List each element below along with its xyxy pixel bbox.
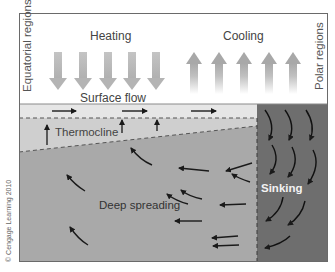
heating-label: Heating — [90, 29, 131, 43]
arrow-left-icon — [213, 245, 239, 246]
heating-arrow-icon — [74, 52, 92, 90]
heating-arrows — [49, 52, 165, 90]
cooling-arrow-icon — [186, 52, 202, 94]
cooling-arrow-icon — [236, 52, 252, 94]
arrow-left-icon — [220, 204, 246, 205]
equatorial-regions-label: Equatorial regions — [21, 0, 33, 92]
heating-arrow-icon — [49, 52, 67, 90]
cooling-label: Cooling — [223, 29, 264, 43]
cooling-arrow-icon — [285, 52, 301, 94]
surface-flow-label: Surface flow — [80, 91, 146, 105]
thermocline-label: Thermocline — [55, 126, 118, 138]
ocean-circulation-diagram — [0, 0, 335, 272]
sinking-label: Sinking — [261, 182, 303, 194]
copyright-notice: © Cengage Learning 2010 — [5, 180, 12, 262]
cooling-arrow-icon — [211, 52, 227, 94]
cooling-arrow-icon — [261, 52, 277, 94]
polar-regions-label: Polar regions — [313, 22, 325, 90]
heating-arrow-icon — [99, 52, 117, 90]
cooling-arrows — [186, 52, 301, 94]
deep-spreading-label: Deep spreading — [99, 199, 180, 211]
heating-arrow-icon — [147, 52, 165, 90]
heating-arrow-icon — [123, 52, 141, 90]
